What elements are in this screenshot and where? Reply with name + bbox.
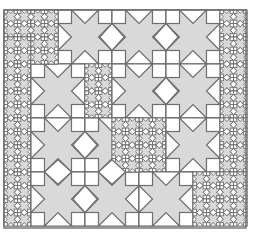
star-tile [166,118,220,172]
tile-group [4,10,247,226]
star-tile [31,64,85,118]
star-tile [139,172,193,226]
star-tiling-figure [0,0,254,236]
